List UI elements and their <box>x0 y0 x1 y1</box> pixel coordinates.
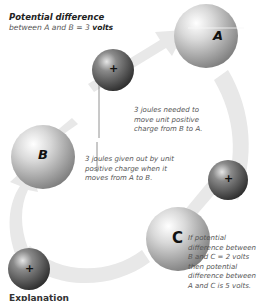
sphere-a <box>174 4 238 68</box>
diagram-subtitle: between A and B = 3 volts <box>9 23 113 32</box>
note-a-to-b: 3 joules given out by unit positive char… <box>85 155 174 184</box>
plus-icon: + <box>109 62 118 75</box>
potential-difference-diagram: Potential difference between A and B = 3… <box>0 0 261 301</box>
diagram-title: Potential difference <box>9 12 104 22</box>
subtitle-unit: volts <box>92 23 113 32</box>
sphere-label-b: B <box>38 147 48 162</box>
sphere-label-c: C <box>172 229 183 247</box>
plus-icon: + <box>224 172 233 185</box>
note-c: If potential difference between B and C … <box>188 234 256 292</box>
note-b-to-a: 3 joules needed to move unit positive ch… <box>134 106 203 135</box>
sphere-label-a: A <box>213 28 223 43</box>
plus-icon: + <box>25 262 34 275</box>
partial-heading: Explanation <box>9 293 69 301</box>
subtitle-text: between A and B = 3 <box>9 23 92 32</box>
